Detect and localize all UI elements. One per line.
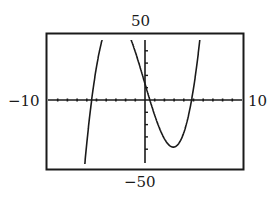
axes xyxy=(48,40,242,163)
graph-window xyxy=(0,0,275,199)
